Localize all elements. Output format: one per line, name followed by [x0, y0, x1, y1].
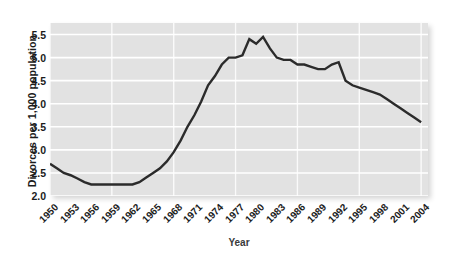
y-axis-tick-label: 5.0 — [22, 52, 46, 64]
y-axis-tick-label: 3.0 — [22, 144, 46, 156]
y-axis-tick-label: 2.5 — [22, 167, 46, 179]
y-axis-tick-label: 3.5 — [22, 121, 46, 133]
y-axis-tick-label: 5.5 — [22, 29, 46, 41]
vertical-gridlines — [50, 23, 421, 196]
x-axis-title: Year — [50, 237, 428, 248]
x-axis-tick-labels: 1950195319561959196219651968197119741977… — [50, 196, 428, 236]
y-axis-tick-labels: 2.02.53.03.54.04.55.05.5 — [22, 23, 46, 196]
y-axis-tick-label: 4.5 — [22, 75, 46, 87]
y-axis-tick-label: 2.0 — [22, 190, 46, 202]
horizontal-gridlines — [50, 35, 428, 196]
plot-area — [50, 23, 428, 196]
chart-plot-svg — [50, 23, 428, 196]
chart-figure: Divorces per 1,000 population 2.02.53.03… — [0, 0, 454, 259]
y-axis-tick-label: 4.0 — [22, 98, 46, 110]
